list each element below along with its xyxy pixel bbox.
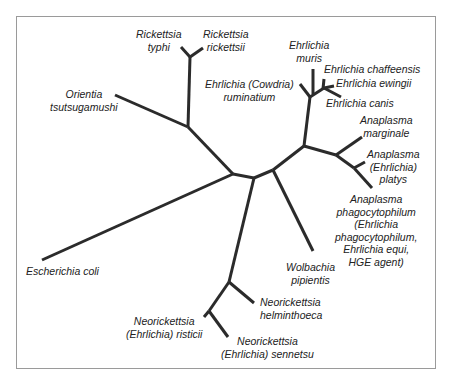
branch-neorickettsia-helminthoeca <box>229 282 254 303</box>
branch-anaplasma-stem <box>304 146 336 155</box>
label-orientia-tsutsugamushi: Orientia tsutsugamushi <box>50 88 118 113</box>
branch-rickettsia-typhi <box>181 47 190 57</box>
label-rickettsia-rickettsii: Rickettsia rickettsii <box>203 28 249 53</box>
branch-wolbachia <box>273 170 313 251</box>
label-ehrlichia-cowdria-ruminatium: Ehrlichia (Cowdria) ruminatium <box>205 78 294 103</box>
branch-anaplasma-sub <box>336 155 354 168</box>
label-neorickettsia-helminthoeca: Neorickettsia helminthoeca <box>260 296 322 321</box>
branch-escherichia-coli <box>42 174 233 260</box>
branch-rickettsia-stem <box>188 57 190 127</box>
label-ehrlichia-muris: Ehrlichia muris <box>289 39 329 64</box>
label-wolbachia-pipientis: Wolbachia pipientis <box>286 261 335 286</box>
branch-ehrlichia-ruminatium <box>300 84 310 97</box>
branch-ehrlichia-stem <box>304 97 310 146</box>
branch-neorickettsia-sennetsu <box>209 311 228 337</box>
label-neorickettsia-risticii: Neorickettsia (Ehrlichia) risticii <box>126 315 202 340</box>
branch-internal-2 <box>254 170 273 178</box>
branch-orientia <box>115 95 188 127</box>
branch-neorickettsia-sub <box>209 282 229 311</box>
branch-anaplasma-marginale <box>336 137 362 155</box>
label-anaplasma-platys: Anaplasma (Ehrlichia) platys <box>367 148 420 186</box>
label-neorickettsia-sennetsu: Neorickettsia (Ehrlichia) sennetsu <box>221 335 314 360</box>
branch-internal-1 <box>233 174 254 178</box>
label-anaplasma-marginale: Anaplasma marginale <box>360 114 413 139</box>
branch-anaplasmataceae-stem <box>273 146 304 170</box>
phylogenetic-tree <box>0 0 450 382</box>
branch-ehrlichia-chaffeensis <box>323 79 324 89</box>
label-escherichia-coli: Escherichia coli <box>26 265 99 278</box>
branch-rickettsia-rickettsii <box>190 48 203 57</box>
label-ehrlichia-ewingii: Ehrlichia ewingii <box>336 77 411 90</box>
label-anaplasma-phagocytophilum: Anaplasma phagocytophilum (Ehrlichia pha… <box>335 193 417 268</box>
branch-rickettsiaceae-stem <box>188 127 233 174</box>
branch-anaplasma-platys <box>354 162 365 168</box>
label-ehrlichia-chaffeensis: Ehrlichia chaffeensis <box>324 63 420 76</box>
label-ehrlichia-canis: Ehrlichia canis <box>326 97 394 110</box>
branch-neorickettsia-stem <box>229 178 254 282</box>
label-rickettsia-typhi: Rickettsia typhi <box>136 28 182 53</box>
